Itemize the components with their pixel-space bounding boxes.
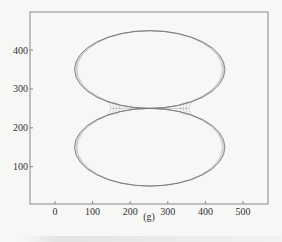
- y-tick-label: 100: [13, 161, 28, 172]
- x-tick-label: 100: [85, 206, 100, 217]
- x-tick-label: 400: [198, 206, 213, 217]
- bleed-through-text: [20, 236, 282, 242]
- x-tick-label: 500: [236, 206, 251, 217]
- curve-traces: [75, 31, 225, 186]
- waist-cusp-trace: [189, 101, 193, 115]
- waist-cusp-trace: [107, 101, 111, 115]
- figure-caption: (g): [143, 211, 155, 223]
- y-tick-label: 200: [13, 122, 28, 133]
- chart: 100200300400 0100200300400500 (g): [0, 0, 282, 242]
- x-tick-label: 200: [123, 206, 138, 217]
- y-tick-label: 400: [13, 45, 28, 56]
- lower-lobe-trace: [77, 108, 222, 186]
- y-tick-label: 300: [13, 83, 28, 94]
- x-tick-label: 300: [160, 206, 175, 217]
- x-tick-label: 0: [53, 206, 58, 217]
- upper-lobe-trace: [77, 31, 222, 109]
